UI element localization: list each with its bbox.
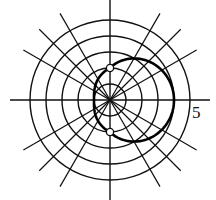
open-point-2 bbox=[106, 128, 113, 135]
radial-tick-label-5: 5 bbox=[192, 103, 201, 122]
open-point-1 bbox=[106, 64, 113, 71]
polar-plot: 5 bbox=[0, 0, 216, 200]
